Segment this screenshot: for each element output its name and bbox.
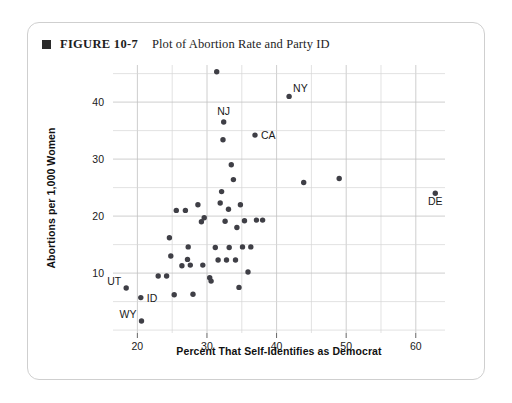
square-bullet-icon <box>42 40 51 49</box>
figure-caption: FIGURE 10-7 Plot of Abortion Rate and Pa… <box>42 37 330 52</box>
figure-card: FIGURE 10-7 Plot of Abortion Rate and Pa… <box>27 22 485 380</box>
figure-title: Plot of Abortion Rate and Party ID <box>152 37 330 52</box>
figure-number: FIGURE 10-7 <box>60 37 138 52</box>
